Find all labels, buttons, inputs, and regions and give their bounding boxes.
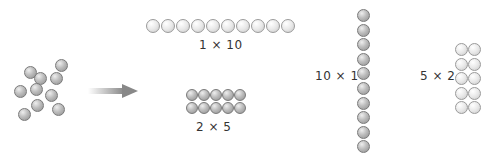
counter [236, 19, 250, 33]
counter [357, 140, 370, 153]
counter [234, 89, 246, 101]
counter [468, 43, 481, 56]
counter [357, 24, 370, 37]
counter [186, 89, 198, 101]
counter [357, 9, 370, 22]
counter [18, 108, 31, 121]
counter [357, 53, 370, 66]
counter [455, 58, 468, 71]
column-array-label: 10 × 1 [315, 69, 359, 83]
counter [222, 102, 234, 114]
counter [455, 101, 468, 114]
tall-array-label: 5 × 2 [420, 69, 455, 83]
counter [455, 87, 468, 100]
counter [234, 102, 246, 114]
counter [281, 19, 295, 33]
counter [468, 72, 481, 85]
counter [146, 19, 160, 33]
counter [210, 102, 222, 114]
counter [221, 19, 235, 33]
counter [198, 89, 210, 101]
counter [251, 19, 265, 33]
counter [206, 19, 220, 33]
counter [176, 19, 190, 33]
counter [357, 97, 370, 110]
counter [14, 85, 27, 98]
counter [468, 87, 481, 100]
counter [357, 126, 370, 139]
counter [52, 103, 65, 116]
counter [357, 38, 370, 51]
counter [191, 19, 205, 33]
counter [161, 19, 175, 33]
counter [357, 67, 370, 80]
counter [186, 102, 198, 114]
counter [468, 101, 481, 114]
counter [55, 59, 68, 72]
counter [455, 43, 468, 56]
counter [357, 111, 370, 124]
counter [357, 82, 370, 95]
counter [266, 19, 280, 33]
counter [210, 89, 222, 101]
counter [30, 83, 43, 96]
counter [31, 99, 44, 112]
counter [198, 102, 210, 114]
row-array-label: 1 × 10 [199, 38, 243, 52]
counter [222, 89, 234, 101]
counter [455, 72, 468, 85]
counter [468, 58, 481, 71]
grid-array-label: 2 × 5 [196, 120, 231, 134]
counter [50, 72, 63, 85]
arrow-right-icon [88, 84, 138, 98]
counter [45, 89, 58, 102]
